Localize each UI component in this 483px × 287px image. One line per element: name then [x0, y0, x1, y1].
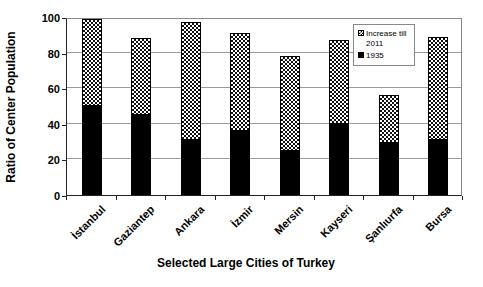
x-category-label-Kayseri: Kayseri [318, 203, 355, 240]
x-category-label-Ankara: Ankara [172, 203, 207, 238]
bar-segment-1935-İzmir [230, 131, 250, 195]
bar-segment-1935-Gaziantep [131, 115, 151, 195]
legend-item-1935: 1935 [358, 51, 411, 61]
bar-segment-increase-İstanbul [82, 19, 102, 106]
y-tick-label-100: 100 [26, 11, 60, 25]
bar-Bursa [428, 19, 448, 195]
chart-figure: Ratio of Center Population Increase till… [0, 0, 483, 287]
black-swatch-icon [358, 52, 364, 58]
y-tick-mark-60 [62, 89, 66, 90]
x-category-label-İstanbul: İstanbul [69, 203, 107, 241]
bar-segment-increase-Mersin [280, 56, 300, 150]
plot-area: Increase till 2011 1935 [66, 18, 462, 196]
y-tick-label-0: 0 [26, 189, 60, 203]
x-axis-title: Selected Large Cities of Turkey [66, 256, 426, 270]
x-tick-mark-3 [215, 196, 216, 200]
x-tick-mark-7 [413, 196, 414, 200]
x-tick-mark-4 [264, 196, 265, 200]
gridline-40 [67, 123, 461, 124]
bar-Gaziantep [131, 19, 151, 195]
legend-label-1935: 1935 [366, 51, 384, 61]
bar-Ankara [181, 19, 201, 195]
x-tick-mark-0 [66, 196, 67, 200]
bar-İstanbul [82, 19, 102, 195]
y-tick-mark-20 [62, 160, 66, 161]
bar-segment-increase-Ankara [181, 22, 201, 140]
y-tick-mark-40 [62, 125, 66, 126]
bar-segment-1935-İstanbul [82, 106, 102, 195]
bar-segment-increase-Bursa [428, 37, 448, 140]
bar-segment-1935-Kayseri [329, 124, 349, 195]
bar-segment-increase-Şanlıurfa [379, 95, 399, 143]
y-axis-title: Ratio of Center Population [4, 18, 20, 196]
y-tick-mark-100 [62, 18, 66, 19]
bar-segment-1935-Bursa [428, 140, 448, 195]
bar-segment-increase-Kayseri [329, 40, 349, 124]
x-tick-mark-5 [314, 196, 315, 200]
checker-pattern-swatch-icon [358, 30, 364, 36]
gridline-60 [67, 87, 461, 88]
bar-segment-increase-Gaziantep [131, 38, 151, 115]
bar-segment-1935-Şanlıurfa [379, 143, 399, 195]
y-tick-label-40: 40 [26, 118, 60, 132]
legend-item-increase: Increase till 2011 [358, 29, 411, 48]
x-category-label-İzmir: İzmir [229, 203, 256, 230]
x-category-label-Mersin: Mersin [272, 203, 306, 237]
x-category-label-Bursa: Bursa [423, 203, 454, 234]
x-tick-mark-1 [116, 196, 117, 200]
gridline-20 [67, 158, 461, 159]
bar-Kayseri [329, 19, 349, 195]
y-tick-mark-80 [62, 54, 66, 55]
bar-İzmir [230, 19, 250, 195]
x-category-label-Şanlıurfa: Şanlıurfa [363, 203, 405, 245]
x-tick-mark-6 [363, 196, 364, 200]
bar-Mersin [280, 19, 300, 195]
bar-segment-1935-Mersin [280, 151, 300, 196]
legend-label-increase: Increase till 2011 [366, 29, 411, 48]
bar-segment-increase-İzmir [230, 33, 250, 131]
x-tick-mark-8 [462, 196, 463, 200]
y-tick-label-20: 20 [26, 153, 60, 167]
legend: Increase till 2011 1935 [353, 24, 415, 66]
y-tick-label-80: 80 [26, 47, 60, 61]
bar-segment-1935-Ankara [181, 140, 201, 195]
y-tick-label-60: 60 [26, 82, 60, 96]
x-category-label-Gaziantep: Gaziantep [111, 203, 157, 249]
x-tick-mark-2 [165, 196, 166, 200]
